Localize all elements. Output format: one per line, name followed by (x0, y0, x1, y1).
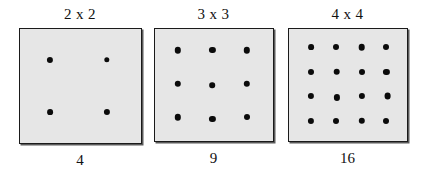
square-numbers-figure: 2 x 2 4 3 x 3 9 4 x 4 16 (0, 0, 421, 171)
grid-dot (359, 93, 365, 99)
grid-dot (210, 82, 216, 88)
grid-dot (243, 81, 249, 87)
panel-4x4: 4 x 4 16 (282, 0, 413, 171)
grid-dot (334, 68, 341, 75)
grid-dot (308, 93, 314, 99)
grid-dot (384, 93, 391, 100)
dot-grid-2x2 (19, 28, 142, 144)
grid-dot (47, 109, 53, 115)
grid-dot (334, 94, 340, 100)
grid-dot (358, 44, 365, 51)
panel-title-2x2: 2 x 2 (64, 0, 96, 28)
panel-2x2: 2 x 2 4 (10, 0, 150, 171)
grid-dot (209, 116, 215, 122)
panel-caption-3x3: 9 (210, 149, 218, 167)
grid-dot (209, 47, 215, 53)
dot-grid-3x3 (154, 28, 274, 142)
grid-dot (383, 118, 389, 124)
panel-caption-4x4: 16 (340, 149, 355, 167)
grid-dot (359, 69, 365, 75)
grid-dot (308, 69, 314, 75)
grid-dot (175, 114, 181, 120)
grid-dot (47, 57, 53, 63)
panel-title-3x3: 3 x 3 (198, 0, 230, 28)
panel-3x3: 3 x 3 9 (148, 0, 279, 171)
grid-dot (243, 47, 249, 53)
grid-dot (244, 114, 250, 120)
grid-dot (333, 118, 339, 124)
grid-dot (383, 68, 389, 74)
grid-dot (308, 118, 314, 124)
dot-grid-4x4 (288, 28, 408, 142)
grid-dot (175, 47, 181, 53)
grid-dot (175, 81, 181, 87)
panel-title-4x4: 4 x 4 (332, 0, 364, 28)
grid-dot (104, 57, 109, 62)
grid-dot (383, 44, 389, 50)
grid-dot (104, 109, 110, 115)
panel-caption-2x2: 4 (76, 151, 84, 169)
grid-dot (333, 44, 339, 50)
grid-dot (308, 44, 314, 50)
grid-dot (358, 118, 364, 124)
